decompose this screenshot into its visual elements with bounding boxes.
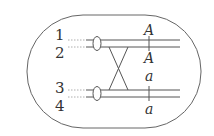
label-3: 3 [55, 79, 65, 97]
crossover [109, 47, 128, 90]
gene-label-3: a [145, 68, 153, 84]
gene-label-2: A [142, 50, 154, 66]
cell-diagram: 1 2 3 4 A A a a [0, 0, 214, 136]
label-4: 4 [55, 97, 65, 115]
label-2: 2 [55, 44, 65, 62]
centromere-bottom [93, 87, 101, 101]
gene-label-4: a [145, 101, 153, 117]
gene-label-1: A [142, 22, 154, 38]
dotted-leaders [68, 40, 86, 97]
cell-outline [27, 15, 201, 128]
centromere-top [93, 37, 101, 51]
label-1: 1 [55, 26, 65, 44]
